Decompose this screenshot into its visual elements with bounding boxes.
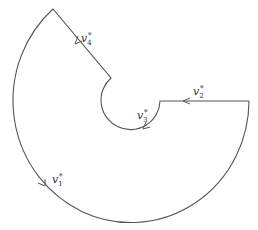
label-v2-sup: * xyxy=(200,84,204,93)
label-v2-sub: 2 xyxy=(199,92,203,100)
label-v1-sub: 1 xyxy=(58,180,62,188)
label-v1: v1* xyxy=(52,174,63,185)
label-v2: v2* xyxy=(193,86,204,97)
label-v4: v4* xyxy=(81,33,92,44)
label-v4-sub: 4 xyxy=(87,39,91,47)
label-v3-sub: 3 xyxy=(143,116,147,124)
contour-diagram xyxy=(0,0,258,230)
label-v3-sup: * xyxy=(144,108,148,117)
label-v4-sup: * xyxy=(88,31,92,40)
label-v3: v3* xyxy=(137,110,148,121)
label-v1-sup: * xyxy=(59,172,63,181)
contour-path xyxy=(13,9,249,223)
